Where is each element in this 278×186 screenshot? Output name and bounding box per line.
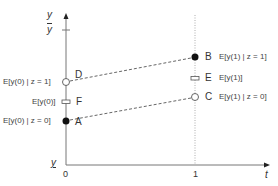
point-label-C: C [205, 92, 212, 102]
point-C-open-circle-icon [192, 94, 199, 101]
y-axis-label: y [47, 10, 52, 20]
annotation-C: E[y(1) | z = 0] [219, 93, 267, 101]
point-E-rect-icon [191, 77, 199, 81]
point-label-B: B [205, 52, 212, 62]
point-label-A: A [75, 117, 82, 127]
point-D-open-circle-icon [63, 79, 70, 86]
point-label-F: F [76, 97, 82, 107]
annotation-F: E[y(0)] [32, 98, 56, 106]
x-tick-0: 0 [63, 170, 68, 179]
annotation-D: E[y(0) | z = 1] [3, 78, 51, 86]
x-axis-arrow-icon [264, 163, 270, 168]
line-A-C [70, 98, 191, 120]
annotation-A: E[y(0) | z = 0] [3, 117, 51, 125]
point-label-D: D [75, 70, 82, 80]
point-F-rect-icon [62, 100, 70, 104]
y-axis-arrow-icon [64, 13, 69, 19]
point-label-E: E [205, 73, 212, 83]
annotation-B: E[y(1) | z = 1] [219, 53, 267, 61]
y-upper-bound-label: y [47, 25, 52, 35]
y-lower-bound-label: y [51, 158, 56, 168]
point-A-filled-circle-icon [63, 118, 70, 125]
x-axis-label: t [265, 170, 268, 180]
annotation-E: E[y(1)] [219, 74, 243, 82]
point-B-filled-circle-icon [192, 54, 199, 61]
x-tick-1: 1 [193, 170, 198, 179]
line-D-B [70, 58, 191, 81]
